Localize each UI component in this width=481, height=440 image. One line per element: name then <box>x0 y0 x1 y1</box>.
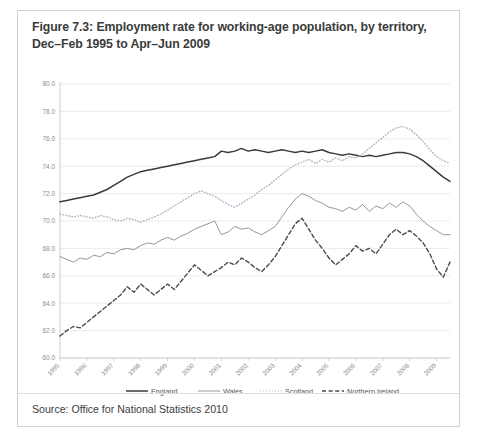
legend-label-scotland: Scotland <box>285 387 313 396</box>
x-axis-tick-label: 2009 <box>422 361 437 376</box>
series-line-northern-ireland <box>60 218 450 336</box>
chart-plot-area: 60.062.064.066.068.070.072.074.076.078.0… <box>18 61 459 406</box>
legend-label-northern-ireland: Northern Ireland <box>347 387 399 396</box>
y-axis-tick-label: 70.0 <box>43 217 56 224</box>
source-note: Source: Office for National Statistics 2… <box>32 403 228 415</box>
line-chart: 60.062.064.066.068.070.072.074.076.078.0… <box>18 61 459 406</box>
x-axis-tick-label: 1999 <box>153 361 168 376</box>
y-axis-tick-label: 72.0 <box>43 190 56 197</box>
y-axis-tick-label: 80.0 <box>43 80 56 87</box>
legend-label-england: England <box>151 387 177 396</box>
x-axis-tick-label: 2006 <box>342 361 357 376</box>
x-axis-tick-label: 2001 <box>207 361 222 376</box>
y-axis-tick-label: 78.0 <box>43 108 56 115</box>
x-axis-tick-label: 2005 <box>315 361 330 376</box>
series-line-scotland <box>60 126 450 222</box>
x-axis-tick-label: 1996 <box>73 361 88 376</box>
figure-title-line1: Figure 7.3: Employment rate for working-… <box>32 20 427 34</box>
y-axis-tick-label: 60.0 <box>43 354 56 361</box>
x-axis-tick-label: 2002 <box>234 361 249 376</box>
y-axis-tick-label: 62.0 <box>43 327 56 334</box>
figure-title: Figure 7.3: Employment rate for working-… <box>32 19 442 53</box>
y-axis-tick-label: 68.0 <box>43 245 56 252</box>
x-axis-tick-label: 1997 <box>99 361 114 376</box>
x-axis-tick-label: 2000 <box>180 361 195 376</box>
x-axis-tick-label: 1995 <box>46 361 61 376</box>
y-axis-tick-label: 74.0 <box>43 163 56 170</box>
y-axis-tick-label: 76.0 <box>43 135 56 142</box>
x-axis-tick-label: 2007 <box>368 361 383 376</box>
y-axis-tick-label: 64.0 <box>43 300 56 307</box>
x-axis-tick-label: 2003 <box>261 361 276 376</box>
x-axis-tick-label: 2008 <box>395 361 410 376</box>
x-axis-tick-label: 1998 <box>126 361 141 376</box>
x-axis-tick-label: 2004 <box>288 361 303 376</box>
figure-container: Figure 7.3: Employment rate for working-… <box>17 10 460 427</box>
legend-label-wales: Wales <box>223 387 243 396</box>
series-line-wales <box>60 194 450 263</box>
source-divider <box>18 393 459 394</box>
y-axis-tick-label: 66.0 <box>43 272 56 279</box>
figure-title-line2: Dec–Feb 1995 to Apr–Jun 2009 <box>32 36 442 53</box>
